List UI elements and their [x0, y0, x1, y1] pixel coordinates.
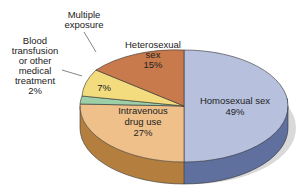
label-homosexual: Homosexual sex: [200, 95, 270, 106]
leader-blood: [62, 70, 82, 76]
label-iv-drug-2: drug use: [125, 116, 162, 127]
label-blood-pct: 2%: [28, 85, 42, 96]
label-multiple-pct: 7%: [97, 82, 111, 93]
leader-multiple: [84, 32, 96, 52]
label-homosexual-pct: 49%: [225, 106, 245, 117]
label-multiple-2: exposure: [64, 19, 103, 30]
label-hetero-pct: 15%: [143, 59, 163, 70]
label-iv-drug-1: Intravenous: [118, 105, 168, 116]
label-iv-drug-pct: 27%: [133, 127, 153, 138]
pie-chart: Homosexual sex 49% Intravenous drug use …: [0, 0, 308, 196]
